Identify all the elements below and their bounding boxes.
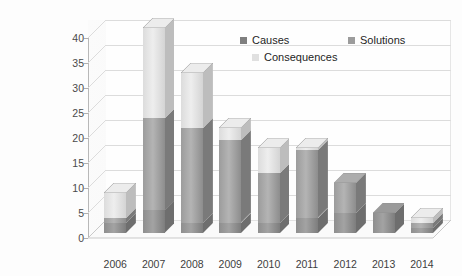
bar-segment[interactable] [258, 148, 280, 173]
legend-swatch-consequences [252, 54, 259, 61]
x-axis-tick-label: 2014 [410, 258, 433, 270]
bar-segment-face [258, 173, 280, 223]
gridline-diagonal [88, 20, 107, 39]
bar-segment-face [296, 148, 318, 151]
bar-segment[interactable] [143, 28, 165, 118]
y-axis-tick-label: 10 [10, 183, 84, 194]
y-axis-tick-label: 40 [10, 33, 84, 44]
bar-top-face [143, 18, 175, 28]
y-axis-tick-mark [84, 213, 88, 214]
bar-segment[interactable] [104, 223, 126, 233]
chart-container: 0510152025303540 20062007200820092010201… [0, 0, 462, 276]
bar-segment[interactable] [104, 193, 126, 218]
bar-segment[interactable] [143, 210, 165, 233]
bar-segment-face [334, 213, 356, 233]
legend-swatch-causes [240, 37, 247, 44]
bar-segment[interactable] [373, 213, 395, 233]
bar-segment-face [258, 148, 280, 173]
legend-item-causes[interactable]: Causes [240, 34, 289, 46]
bar-segment-face [104, 193, 126, 218]
legend-label-solutions: Solutions [360, 34, 405, 46]
bar-segment-face [143, 28, 165, 118]
bar-segment-face [181, 73, 203, 128]
legend-label-causes: Causes [252, 34, 289, 46]
y-axis-tick-mark [84, 163, 88, 164]
bar-segment-side [241, 130, 251, 222]
y-axis-tick-mark [84, 188, 88, 189]
bar-segment[interactable] [334, 183, 356, 213]
bar-top-face [296, 138, 328, 148]
bar-segment[interactable] [296, 218, 318, 233]
bar-segment-face [181, 128, 203, 223]
bar-top-face [104, 183, 136, 193]
bar-segment[interactable] [334, 213, 356, 233]
y-axis-tick-label: 35 [10, 58, 84, 69]
bar-segment[interactable] [143, 118, 165, 211]
bar-segment[interactable] [296, 150, 318, 218]
legend-item-consequences[interactable]: Consequences [252, 51, 337, 63]
bar-segment[interactable] [411, 223, 433, 228]
bar-segment-face [373, 213, 395, 233]
bar-segment-side [318, 140, 328, 217]
bar-segment-face [143, 210, 165, 233]
legend-swatch-solutions [348, 37, 355, 44]
bar-top-face [411, 208, 443, 218]
bar-segment-face [219, 140, 241, 223]
y-axis-tick-mark [84, 113, 88, 114]
bar-segment-face [104, 223, 126, 233]
x-axis-tick-label: 2010 [257, 258, 280, 270]
bar-segment-face [219, 223, 241, 233]
bar-segment-face [296, 218, 318, 233]
bar-segment[interactable] [296, 148, 318, 151]
y-axis-tick-label: 0 [10, 233, 84, 244]
bar-segment[interactable] [411, 228, 433, 233]
y-axis-tick-mark [84, 38, 88, 39]
gridline-diagonal [88, 70, 107, 89]
bar-segment-face [219, 128, 241, 141]
bar-segment[interactable] [219, 128, 241, 141]
gridline-diagonal [88, 145, 107, 164]
bar-segment-face [143, 118, 165, 211]
bar-segment-face [296, 150, 318, 218]
x-axis-tick-label: 2008 [180, 258, 203, 270]
y-axis: 0510152025303540 [0, 0, 84, 276]
bar-top-face [219, 118, 251, 128]
bar-segment[interactable] [104, 218, 126, 223]
bar-segment[interactable] [181, 73, 203, 128]
y-axis-tick-mark [84, 138, 88, 139]
bar-segment[interactable] [258, 173, 280, 223]
bar-segment-face [411, 223, 433, 228]
bar-segment-face [104, 218, 126, 223]
bar-segment[interactable] [181, 223, 203, 233]
bar-segment-face [258, 223, 280, 233]
bar-segment[interactable] [181, 128, 203, 223]
legend-label-consequences: Consequences [264, 51, 337, 63]
bar-segment-side [165, 18, 175, 118]
bar-segment[interactable] [219, 223, 241, 233]
bar-segment-face [411, 228, 433, 233]
bar-segment[interactable] [258, 223, 280, 233]
x-axis-tick-label: 2013 [372, 258, 395, 270]
bar-segment[interactable] [219, 140, 241, 223]
gridline-diagonal [88, 45, 107, 64]
bar-segment-side [165, 108, 175, 210]
legend-item-solutions[interactable]: Solutions [348, 34, 405, 46]
bar-segment[interactable] [411, 218, 433, 223]
x-axis-tick-label: 2009 [219, 258, 242, 270]
y-axis-tick-label: 15 [10, 158, 84, 169]
bar-segment-face [411, 218, 433, 223]
bar-segment-face [181, 223, 203, 233]
x-axis-tick-label: 2007 [142, 258, 165, 270]
x-axis-tick-label: 2006 [104, 258, 127, 270]
y-axis-tick-label: 30 [10, 83, 84, 94]
bar-segment-face [334, 183, 356, 213]
y-axis-tick-label: 5 [10, 208, 84, 219]
bar-segment-side [203, 118, 213, 223]
gridline-diagonal [88, 95, 107, 114]
y-axis-tick-mark [84, 238, 88, 239]
y-axis-tick-mark [84, 63, 88, 64]
bar-top-face [373, 203, 405, 213]
y-axis-tick-mark [84, 88, 88, 89]
y-axis-tick-label: 25 [10, 108, 84, 119]
y-axis-tick-label: 20 [10, 133, 84, 144]
